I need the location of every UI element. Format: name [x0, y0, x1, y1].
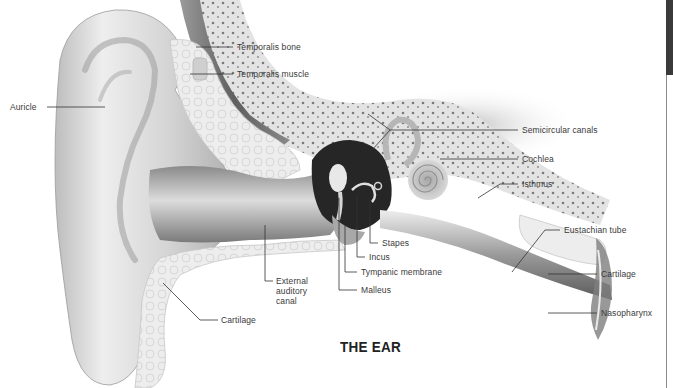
ear-diagram: Auricle Temporalis bone Temporalis muscl…: [0, 0, 673, 388]
label-eustachian-tube: Eustachian tube: [564, 225, 626, 235]
middle-ear-cavity: [312, 140, 392, 230]
label-external-auditory-canal: External auditory canal: [276, 276, 308, 306]
canal-cartilage: [135, 240, 345, 388]
label-incus: Incus: [369, 252, 390, 262]
label-cartilage-left: Cartilage: [221, 315, 256, 325]
malleus-shape: [329, 164, 347, 192]
label-cochlea: Cochlea: [522, 154, 554, 164]
label-stapes: Stapes: [382, 238, 409, 248]
label-temporalis-muscle: Temporalis muscle: [237, 69, 309, 79]
label-malleus: Malleus: [361, 285, 391, 295]
label-nasopharynx: Nasopharynx: [601, 308, 652, 318]
label-auricle: Auricle: [10, 102, 37, 112]
label-semicircular-canals: Semicircular canals: [522, 125, 598, 135]
diagram-title: THE EAR: [340, 338, 401, 355]
label-cartilage-right: Cartilage: [601, 269, 636, 279]
page-edge-tab: [666, 0, 673, 75]
label-temporalis-bone: Temporalis bone: [237, 42, 301, 52]
page-edge-line: [666, 75, 667, 388]
ear-illustration: [0, 0, 673, 388]
cochlea-shape: [408, 160, 448, 200]
label-isthmus: Isthmus: [522, 179, 552, 189]
label-tympanic-membrane: Tympanic membrane: [361, 267, 442, 277]
